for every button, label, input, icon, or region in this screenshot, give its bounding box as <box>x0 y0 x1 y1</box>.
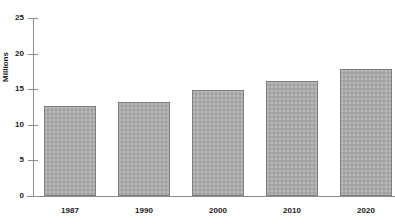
bar-1990 <box>118 102 170 196</box>
x-axis-label: 2020 <box>340 207 392 215</box>
bar-chart: Millions 2520151050 19871990200020102020 <box>0 0 395 224</box>
y-axis-tick-label: 0 <box>0 192 24 200</box>
x-axis-line <box>27 196 395 197</box>
x-axis-label: 2000 <box>192 207 244 215</box>
bar-2000 <box>192 90 244 196</box>
bar-2020 <box>340 69 392 196</box>
y-axis-tick-label: 15 <box>0 85 24 93</box>
bar-1987 <box>44 106 96 196</box>
y-axis-tick-label: 5 <box>0 156 24 164</box>
y-axis-tick-label: 10 <box>0 121 24 129</box>
bar-2010 <box>266 81 318 196</box>
x-axis-label: 1990 <box>118 207 170 215</box>
y-axis-tick <box>28 196 38 197</box>
x-axis-label: 1987 <box>44 207 96 215</box>
y-axis-tick-label: 25 <box>0 14 24 22</box>
plot-area <box>33 18 394 196</box>
y-axis-tick-label: 20 <box>0 50 24 58</box>
x-axis-label: 2010 <box>266 207 318 215</box>
